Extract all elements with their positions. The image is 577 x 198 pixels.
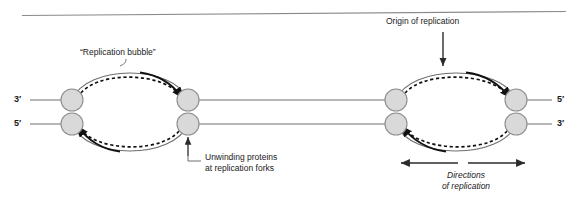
directions-of-replication-label-line1: Directions: [426, 170, 506, 180]
unwinding-protein-circle: [505, 89, 527, 111]
strand-tails: [30, 100, 552, 124]
origin-of-replication-label: Origin of replication: [386, 16, 459, 26]
directions-of-replication-label-line2: of replication: [426, 181, 506, 191]
unwinding-protein-circle: [505, 113, 527, 135]
unwinding-protein-circle: [177, 89, 199, 111]
unwinding-protein-circle: [61, 113, 83, 135]
right-bottom-prime-label: 3′: [557, 118, 564, 129]
unwinding-proteins-label-line1: Unwinding proteins: [205, 152, 277, 162]
right-replication-bubble: [385, 73, 527, 152]
unwinding-protein-circle: [385, 113, 407, 135]
top-divider-rule: [22, 12, 566, 16]
connecting-strands: [188, 100, 396, 124]
unwinding-proteins-label-line2: at replication forks: [205, 163, 274, 173]
left-replication-bubble: [61, 73, 199, 152]
left-top-prime-label: 3′: [14, 94, 21, 105]
unwinding-protein-circle: [385, 89, 407, 111]
dna-replication-figure: “Replication bubble” Origin of replicati…: [0, 0, 577, 198]
unwinding-protein-circle: [61, 89, 83, 111]
replication-bubble-label: “Replication bubble”: [80, 47, 156, 57]
right-top-prime-label: 5′: [557, 94, 564, 105]
unwinding-protein-circle: [177, 113, 199, 135]
unwinding-proteins-leader: [188, 137, 201, 161]
left-bottom-prime-label: 5′: [14, 118, 21, 129]
diagram-canvas: [0, 0, 577, 198]
replication-bubble-leader: [120, 59, 126, 66]
